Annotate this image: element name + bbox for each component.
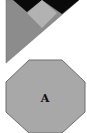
diagram-canvas: A bbox=[0, 0, 87, 133]
top-piece bbox=[6, 0, 79, 63]
octagon-label: A bbox=[40, 92, 50, 105]
octagon-piece: A bbox=[6, 60, 85, 133]
